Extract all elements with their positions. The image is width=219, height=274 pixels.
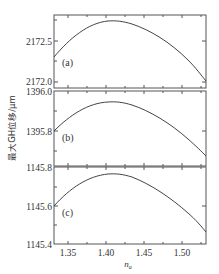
x-tick-label-1.40: 1.40	[98, 248, 115, 258]
y-tick-label-b-1396.0: 1396.0	[26, 87, 52, 97]
panel-label-a: (a)	[62, 57, 73, 69]
y-tick-label-a-2172.5: 2172.5	[26, 37, 52, 47]
y-tick-label-b-1395.8: 1395.8	[26, 127, 52, 137]
x-axis-label-sub: a	[129, 264, 132, 270]
panel-label-c: (c)	[62, 207, 73, 219]
y-axis-label: 最大GH位移/μm	[7, 95, 17, 161]
y-tick-label-c-1145.4: 1145.4	[26, 240, 52, 250]
chart-figure: 2172.5 2172.0 1396.0 1395.8 1145.8 1145.…	[0, 0, 219, 274]
panel-a-frame	[54, 15, 206, 88]
x-ticks	[68, 15, 201, 244]
x-axis-label: na	[124, 259, 132, 270]
x-tick-label-1.50: 1.50	[174, 248, 191, 258]
y-tick-label-a-2172.0: 2172.0	[26, 77, 52, 87]
x-tick-label-1.35: 1.35	[60, 248, 77, 258]
y-tick-label-c-1145.6: 1145.6	[26, 202, 52, 212]
y-tick-label-c-1145.8: 1145.8	[26, 163, 52, 173]
curve-panel-b	[54, 102, 206, 156]
curve-panel-a	[54, 21, 206, 81]
panel-b-frame	[54, 91, 206, 166]
panel-c-frame	[54, 167, 206, 244]
y-ticks	[54, 20, 206, 225]
panel-label-b: (b)	[62, 132, 74, 144]
x-tick-label-1.45: 1.45	[136, 248, 153, 258]
curve-panel-c	[54, 174, 206, 232]
